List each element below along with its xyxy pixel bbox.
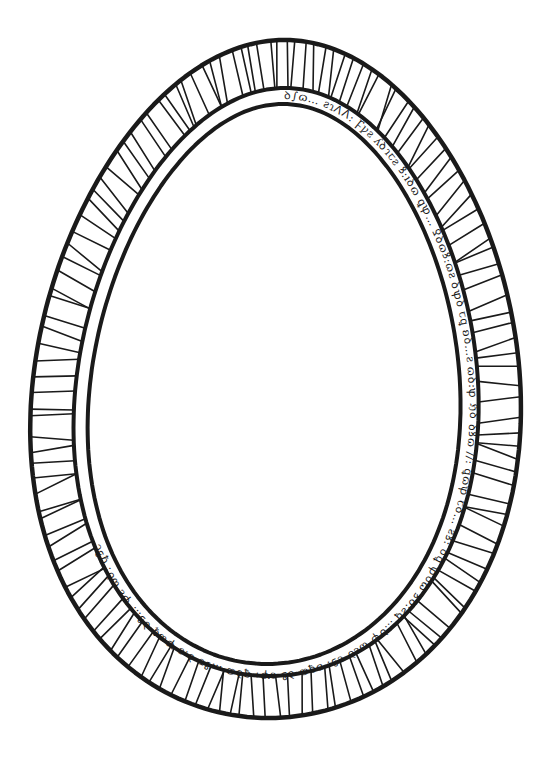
- hatch-line: [427, 170, 459, 199]
- hatch-line: [479, 397, 521, 402]
- hatch-line: [436, 180, 465, 216]
- egg-frame-illustration: ꝺ∫ɷ… ƨɿⴷⴷ: Ꝼꝩƨ ʎꝺɿꞇƨ ꝸ:ıꝺɷ ꝗꝕ… Ꝿꝺɷꝸ:ɷƨ ꝺ…: [0, 0, 556, 763]
- hatch-line: [468, 494, 510, 504]
- hatch-line: [463, 275, 502, 290]
- hatch-line: [459, 525, 497, 545]
- hatch-line: [100, 608, 131, 639]
- hatch-line: [141, 637, 160, 677]
- hatch-line: [271, 41, 275, 89]
- hatch-line: [473, 322, 514, 332]
- hatch-line: [88, 198, 119, 231]
- hatch-line: [350, 657, 364, 697]
- hatch-line: [31, 445, 74, 452]
- hatch-line: [303, 42, 306, 90]
- hatch-line: [473, 473, 514, 486]
- hatch-line: [392, 107, 414, 147]
- hatch-line: [35, 359, 79, 361]
- hatch-line: [42, 326, 83, 342]
- hatch-line: [53, 541, 92, 561]
- hatch-line: [123, 141, 149, 178]
- hatch-line: [58, 548, 95, 571]
- hatch-line: [408, 125, 429, 168]
- hatch-line: [409, 137, 438, 169]
- hatch-line: [313, 43, 314, 91]
- hatch-line: [424, 157, 451, 193]
- hatch-line: [475, 460, 516, 472]
- hatch-line: [398, 118, 424, 153]
- hatch-line: [57, 270, 95, 292]
- hatch-line: [291, 40, 295, 88]
- hatch-line: [38, 343, 80, 353]
- hatch-line: [32, 461, 75, 464]
- hatch-line: [31, 409, 74, 410]
- hatch-line: [445, 558, 481, 583]
- hatch-line: [478, 417, 521, 423]
- hatch-line: [453, 541, 494, 554]
- hatch-line: [44, 315, 85, 328]
- hatch-line: [30, 437, 73, 441]
- hatch-line: [470, 312, 511, 321]
- hatch-line: [256, 43, 264, 90]
- hatch-line: [478, 433, 521, 435]
- hatch-line: [356, 653, 374, 692]
- hatch-line: [369, 645, 383, 686]
- hatch-line: [33, 376, 76, 377]
- hatch-line: [190, 73, 209, 115]
- hatch-line: [459, 264, 499, 276]
- hatch-line: [397, 623, 417, 662]
- hatch-line: [468, 295, 507, 312]
- hatch-line: [111, 613, 135, 651]
- hatch-line: [130, 132, 155, 171]
- hatch-line: [476, 353, 518, 358]
- hatch-line: [432, 581, 462, 614]
- outer-ring: [30, 40, 521, 718]
- hatch-line: [80, 215, 116, 239]
- hatch-line: [329, 665, 335, 707]
- hatch-line: [117, 150, 142, 190]
- hatch-line: [30, 414, 73, 416]
- hatch-line: [32, 391, 75, 393]
- hatch-line: [93, 189, 124, 221]
- hatch-line: [417, 601, 450, 629]
- hatch-line: [478, 381, 520, 385]
- hatch-line: [141, 119, 166, 156]
- hatch-line: [340, 661, 351, 702]
- hatch-line: [78, 576, 109, 610]
- hatch-line: [287, 40, 288, 88]
- hatch-line: [232, 50, 243, 96]
- hatch-lines: [30, 40, 521, 718]
- hatch-line: [318, 47, 326, 94]
- hatch-line: [72, 231, 110, 250]
- hatch-line: [219, 56, 227, 104]
- hatch-line: [409, 611, 442, 638]
- hatch-line: [146, 113, 172, 150]
- hatch-line: [449, 223, 485, 245]
- hatch-line: [475, 338, 515, 352]
- hatch-line: [448, 552, 488, 569]
- hatch-line: [416, 148, 445, 179]
